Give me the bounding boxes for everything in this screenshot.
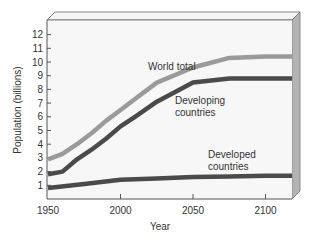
y-tick-label: 12: [32, 29, 44, 40]
y-tick-label: 3: [37, 152, 43, 163]
x-tick-label: 2000: [109, 205, 132, 216]
y-tick-label: 4: [37, 139, 43, 150]
world-total-label: World total: [148, 61, 196, 72]
population-chart: 123456789101112 1950200020502100 World t…: [0, 0, 317, 245]
x-tick-label: 2050: [182, 205, 205, 216]
y-tick-label: 6: [37, 111, 43, 122]
developing-countries-label-1: Developing: [175, 95, 225, 106]
x-tick-label: 1950: [37, 205, 60, 216]
x-axis-title: Year: [150, 221, 171, 232]
y-tick-label: 10: [32, 57, 44, 68]
developing-countries-label-2: countries: [175, 107, 216, 118]
chart-box-top-face: [47, 12, 300, 20]
y-tick-label: 2: [37, 166, 43, 177]
y-axis-title: Population (billions): [12, 66, 23, 153]
developed-countries-label-2: countries: [208, 161, 249, 172]
y-tick-label: 7: [37, 98, 43, 109]
x-tick-label: 2100: [254, 205, 277, 216]
y-tick-label: 9: [37, 70, 43, 81]
y-tick-label: 5: [37, 125, 43, 136]
developed-countries-label-1: Developed: [208, 149, 256, 160]
y-tick-label: 11: [33, 43, 44, 54]
plot-area: [47, 20, 292, 199]
y-tick-label: 8: [37, 84, 43, 95]
y-tick-label: 1: [37, 180, 43, 191]
chart-box-side-face: [292, 12, 300, 199]
